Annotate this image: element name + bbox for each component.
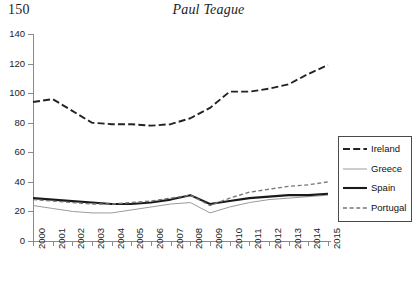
book-page: 150 Paul Teague 020406080100120140 20002… bbox=[0, 0, 417, 291]
running-title: Paul Teague bbox=[0, 2, 417, 18]
legend-label: Spain bbox=[371, 183, 395, 193]
legend-swatch-greece-icon bbox=[343, 164, 367, 174]
running-head: 150 Paul Teague bbox=[0, 0, 417, 24]
legend-label: Portugal bbox=[371, 203, 406, 213]
line-chart: 020406080100120140 200020012002200320042… bbox=[0, 24, 417, 291]
legend-item-spain[interactable]: Spain bbox=[343, 181, 409, 195]
legend-label: Greece bbox=[371, 164, 402, 174]
legend-swatch-spain-icon bbox=[343, 183, 367, 193]
legend-item-ireland[interactable]: Ireland bbox=[343, 142, 409, 156]
chart-legend: IrelandGreeceSpainPortugal bbox=[338, 136, 412, 222]
series-line-ireland bbox=[33, 65, 328, 126]
legend-swatch-ireland-icon bbox=[343, 144, 367, 154]
legend-item-greece[interactable]: Greece bbox=[343, 162, 409, 176]
legend-item-portugal[interactable]: Portugal bbox=[343, 201, 409, 215]
legend-label: Ireland bbox=[371, 144, 400, 154]
legend-swatch-portugal-icon bbox=[343, 203, 367, 213]
